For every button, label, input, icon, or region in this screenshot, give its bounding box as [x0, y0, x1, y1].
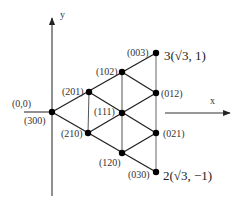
label-021: (021): [163, 128, 185, 140]
x-axis-label: x: [210, 95, 215, 106]
label-210: (210): [61, 128, 83, 140]
point-003: [153, 50, 159, 56]
vertex-top-annotation: 3(√3, 1): [164, 48, 206, 63]
point-300: [49, 109, 55, 115]
label-120: (120): [99, 157, 121, 169]
barycentric-triangle-diagram: y x (0,0) (300) (201) (102) (003) (210): [0, 0, 241, 208]
vertex-bottom-annotation: 2(√3, −1): [163, 168, 212, 183]
point-120: [119, 150, 125, 156]
point-030: [153, 169, 159, 175]
label-012: (012): [161, 88, 183, 100]
label-201: (201): [62, 86, 84, 98]
point-012: [153, 90, 159, 96]
point-111: [119, 110, 125, 116]
label-102: (102): [96, 66, 118, 78]
y-axis-label: y: [60, 9, 65, 20]
label-030: (030): [128, 169, 150, 181]
point-201: [86, 89, 92, 95]
origin-label: (0,0): [12, 98, 31, 110]
label-003: (003): [127, 47, 149, 59]
label-300: (300): [24, 115, 46, 127]
point-021: [153, 130, 159, 136]
label-111: (111): [94, 106, 115, 118]
point-102: [119, 69, 125, 75]
point-210: [85, 130, 91, 136]
